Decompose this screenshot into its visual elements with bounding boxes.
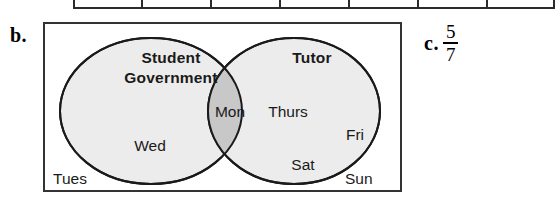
venn-item-tues: Tues <box>53 170 109 188</box>
table-column-divider <box>210 0 212 9</box>
venn-item-fri: Fri <box>333 126 377 144</box>
item-b-label: b. <box>10 25 27 45</box>
venn-item-mon: Mon <box>200 103 260 121</box>
item-c: c. 5 7 <box>424 22 458 65</box>
table-bottom-rule <box>73 7 555 9</box>
venn-item-sat: Sat <box>280 156 326 174</box>
venn-item-thurs: Thurs <box>253 103 323 121</box>
table-column-divider <box>348 0 350 9</box>
table-column-divider <box>417 0 419 9</box>
fraction-denominator: 7 <box>443 44 459 64</box>
venn-left-set-title-line1: Student <box>101 49 241 67</box>
cropped-table-remnant <box>73 0 555 9</box>
table-column-divider <box>486 0 488 9</box>
venn-item-wed: Wed <box>120 137 180 155</box>
item-c-label: c. <box>424 32 439 55</box>
fraction-numerator: 5 <box>443 22 459 42</box>
venn-item-sun: Sun <box>345 170 395 188</box>
table-column-divider <box>141 0 143 9</box>
venn-left-set-title-line2: Government <box>91 69 251 87</box>
venn-right-set-title: Tutor <box>267 49 357 67</box>
venn-diagram-frame: Student Government Tutor Mon Wed Thurs F… <box>43 22 402 192</box>
table-column-divider <box>279 0 281 9</box>
table-column-divider <box>73 0 75 9</box>
fraction-five-sevenths: 5 7 <box>443 22 459 65</box>
